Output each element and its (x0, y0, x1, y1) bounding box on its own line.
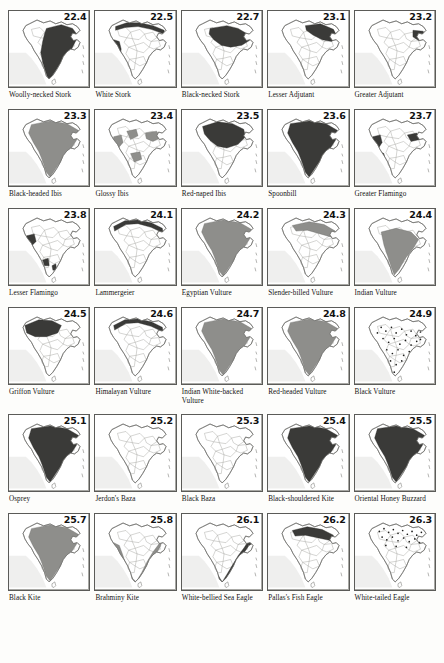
panel-number: 24.7 (237, 309, 260, 319)
map-grid: 22.4Woolly-necked Stork22.5White Stork22… (8, 10, 436, 612)
panel-number: 25.7 (64, 515, 87, 525)
map-cell: 25.1Osprey (8, 414, 90, 513)
panel-number: 24.6 (150, 309, 173, 319)
distribution-map-panel: 22.7 (181, 10, 263, 88)
india-map-figure (182, 514, 262, 590)
panel-number: 25.5 (409, 416, 432, 426)
species-caption: White-tailed Eagle (355, 594, 436, 603)
panel-number: 24.3 (323, 210, 346, 220)
distribution-map-panel: 25.5 (354, 414, 436, 492)
india-map-figure (355, 11, 435, 87)
panel-number: 22.4 (64, 12, 87, 22)
india-map-figure (355, 110, 435, 186)
panel-number: 23.1 (323, 12, 346, 22)
distribution-map-panel: 26.1 (181, 513, 263, 591)
map-cell: 23.8Lesser Flamingo (8, 208, 90, 307)
india-map-figure (95, 415, 175, 491)
map-cell: 24.3Slender-billed Vulture (267, 208, 349, 307)
map-cell: 23.6Spoonbill (267, 109, 349, 208)
species-caption: Woolly-necked Stork (9, 91, 90, 100)
map-cell: 22.7Black-necked Stork (181, 10, 263, 109)
map-cell: 23.3Black-headed Ibis (8, 109, 90, 208)
species-caption: Oriental Honey Buzzard (355, 495, 436, 504)
panel-number: 26.2 (323, 515, 346, 525)
panel-number: 23.5 (237, 111, 260, 121)
species-caption: Jerdon's Baza (95, 495, 176, 504)
panel-number: 24.4 (409, 210, 432, 220)
distribution-map-panel: 25.1 (8, 414, 90, 492)
map-cell: 25.5Oriental Honey Buzzard (354, 414, 436, 513)
map-cell: 22.5White Stork (94, 10, 176, 109)
species-caption: White-bellied Sea Eagle (182, 594, 263, 603)
map-cell: 26.1White-bellied Sea Eagle (181, 513, 263, 612)
india-map-figure (268, 514, 348, 590)
distribution-map-panel: 23.4 (94, 109, 176, 187)
panel-number: 24.9 (409, 309, 432, 319)
panel-number: 22.7 (237, 12, 260, 22)
india-map-figure (95, 308, 175, 384)
species-caption: Red-naped Ibis (182, 190, 263, 199)
distribution-map-panel: 25.4 (267, 414, 349, 492)
panel-number: 24.8 (323, 309, 346, 319)
species-caption: Black-necked Stork (182, 91, 263, 100)
india-map-figure (355, 415, 435, 491)
distribution-map-panel: 23.3 (8, 109, 90, 187)
species-caption: Slender-billed Vulture (268, 289, 349, 298)
species-caption: Greater Adjutant (355, 91, 436, 100)
species-caption: Black Baza (182, 495, 263, 504)
map-cell: 23.2Greater Adjutant (354, 10, 436, 109)
india-map-figure (268, 415, 348, 491)
panel-number: 25.1 (64, 416, 87, 426)
distribution-map-panel: 25.2 (94, 414, 176, 492)
distribution-map-panel: 23.8 (8, 208, 90, 286)
india-map-figure (182, 11, 262, 87)
panel-number: 23.8 (64, 210, 87, 220)
map-cell: 24.8Red-headed Vulture (267, 307, 349, 414)
panel-number: 25.3 (237, 416, 260, 426)
map-cell: 24.5Griffon Vulture (8, 307, 90, 414)
species-caption: Indian White-backed Vulture (182, 388, 263, 405)
distribution-map-panel: 22.5 (94, 10, 176, 88)
species-caption: Lammergeier (95, 289, 176, 298)
distribution-map-panel: 22.4 (8, 10, 90, 88)
map-cell: 24.1Lammergeier (94, 208, 176, 307)
distribution-map-plate: 22.4Woolly-necked Stork22.5White Stork22… (0, 0, 444, 663)
species-caption: Brahminy Kite (95, 594, 176, 603)
species-caption: White Stork (95, 91, 176, 100)
india-map-figure (268, 110, 348, 186)
map-cell: 25.7Black Kite (8, 513, 90, 612)
panel-number: 23.4 (150, 111, 173, 121)
india-map-figure (95, 110, 175, 186)
india-map-figure (9, 11, 89, 87)
species-caption: Black Vulture (355, 388, 436, 397)
india-map-figure (9, 514, 89, 590)
distribution-map-panel: 24.6 (94, 307, 176, 385)
distribution-map-panel: 25.8 (94, 513, 176, 591)
species-caption: Pallas's Fish Eagle (268, 594, 349, 603)
india-map-figure (95, 209, 175, 285)
panel-number: 24.1 (150, 210, 173, 220)
map-cell: 24.2Egyptian Vulture (181, 208, 263, 307)
india-map-figure (355, 209, 435, 285)
distribution-map-panel: 23.5 (181, 109, 263, 187)
distribution-map-panel: 25.7 (8, 513, 90, 591)
panel-number: 26.3 (409, 515, 432, 525)
panel-number: 23.3 (64, 111, 87, 121)
distribution-map-panel: 23.1 (267, 10, 349, 88)
map-cell: 24.4Indian Vulture (354, 208, 436, 307)
distribution-map-panel: 24.8 (267, 307, 349, 385)
india-map-figure (182, 110, 262, 186)
species-caption: Spoonbill (268, 190, 349, 199)
distribution-map-panel: 26.3 (354, 513, 436, 591)
map-cell: 24.6Himalayan Vulture (94, 307, 176, 414)
map-cell: 23.7Greater Flamingo (354, 109, 436, 208)
distribution-map-panel: 24.9 (354, 307, 436, 385)
map-cell: 26.2Pallas's Fish Eagle (267, 513, 349, 612)
distribution-map-panel: 25.3 (181, 414, 263, 492)
distribution-map-panel: 24.5 (8, 307, 90, 385)
species-caption: Greater Flamingo (355, 190, 436, 199)
panel-number: 23.2 (409, 12, 432, 22)
panel-number: 24.2 (237, 210, 260, 220)
species-caption: Lesser Adjutant (268, 91, 349, 100)
distribution-map-panel: 24.1 (94, 208, 176, 286)
